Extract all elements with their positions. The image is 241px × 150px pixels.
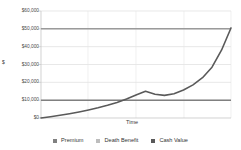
legend-item-premium[interactable]: Premium [53, 138, 83, 144]
y-tick-label: $0 [34, 115, 39, 120]
chart-plot-svg [0, 0, 241, 150]
y-axis-title: $ [2, 59, 5, 65]
y-tick-label: $30,000 [22, 62, 39, 67]
y-tick-label: $50,000 [22, 26, 39, 31]
y-tick-label: $60,000 [22, 8, 39, 13]
y-tick-label: $10,000 [22, 97, 39, 102]
y-tick-label: $40,000 [22, 44, 39, 49]
legend-label-death-benefit: Death Benefit [104, 138, 138, 144]
x-axis-title: Time [126, 119, 138, 125]
chart-container: $0$10,000$20,000$30,000$40,000$50,000$60… [0, 0, 241, 150]
chart-legend: Premium Death Benefit Cash Value [0, 132, 241, 150]
legend-label-cash-value: Cash Value [159, 138, 188, 144]
legend-swatch-cash-value [151, 139, 155, 143]
legend-item-cash-value[interactable]: Cash Value [151, 138, 188, 144]
y-tick-label: $20,000 [22, 79, 39, 84]
legend-item-death-benefit[interactable]: Death Benefit [96, 138, 138, 144]
legend-label-premium: Premium [61, 138, 83, 144]
legend-swatch-premium [53, 139, 57, 143]
legend-swatch-death-benefit [96, 139, 100, 143]
